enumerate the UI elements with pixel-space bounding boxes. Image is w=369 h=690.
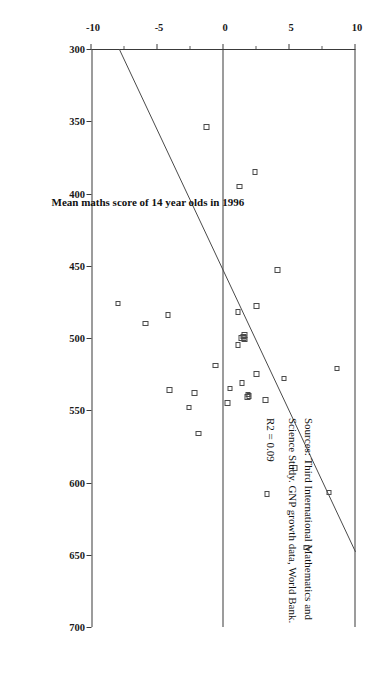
- y-axis-minor-tick: [123, 46, 124, 49]
- scatter-point: [235, 309, 241, 315]
- scatter-point: [195, 431, 201, 437]
- scatter-point: [281, 376, 287, 382]
- y-axis-tick: [222, 44, 223, 49]
- scatter-point: [241, 337, 247, 343]
- scatter-point: [235, 342, 241, 348]
- x-axis-tick-label: 300: [65, 44, 89, 55]
- scatter-point: [166, 387, 172, 393]
- scatter-point: [252, 169, 258, 175]
- x-axis-tick-label: 500: [65, 333, 89, 344]
- source-line-1: Sources: Third International Mathematics…: [300, 418, 316, 668]
- scatter-point: [142, 321, 148, 327]
- source-line-3: R2 = 0.09: [262, 418, 278, 668]
- scatter-point: [263, 397, 269, 403]
- scatter-point: [239, 380, 245, 386]
- x-axis-tick-label: 700: [65, 622, 89, 633]
- x-axis-tick-label: 550: [65, 405, 89, 416]
- y-axis-tick-label: 10: [345, 22, 369, 33]
- y-axis-minor-tick: [189, 46, 190, 49]
- y-axis-minor-tick: [255, 46, 256, 49]
- y-axis-tick-label: -5: [147, 22, 171, 33]
- y-axis-tick-label: -10: [81, 22, 105, 33]
- y-axis-minor-tick: [321, 46, 322, 49]
- scatter-point: [115, 301, 121, 307]
- scatter-point: [274, 267, 280, 273]
- scatter-point: [191, 390, 197, 396]
- scatter-point: [244, 394, 250, 400]
- x-axis-tick-label: 350: [65, 116, 89, 127]
- y-axis-tick-label: 5: [279, 22, 303, 33]
- scatter-point: [165, 312, 171, 318]
- scatter-point: [253, 303, 259, 309]
- scatter-point: [212, 363, 218, 369]
- x-axis-tick-label: 600: [65, 477, 89, 488]
- y-axis-tick: [90, 44, 91, 49]
- scatter-point: [236, 184, 242, 190]
- x-axis-title: Mean maths score of 14 year olds in 1996: [51, 196, 244, 208]
- source-note: Sources: Third International Mathematics…: [262, 418, 316, 668]
- scatter-point: [253, 371, 259, 377]
- scatter-point: [227, 386, 233, 392]
- y-axis-tick-label: 0: [213, 22, 237, 33]
- scatter-point: [186, 405, 192, 411]
- scatter-point: [224, 400, 230, 406]
- source-line-2: Science Study. GNP growth data, World Ba…: [284, 418, 300, 668]
- scatter-point: [334, 366, 340, 372]
- y-axis-tick: [156, 44, 157, 49]
- y-axis-tick: [354, 44, 355, 49]
- x-axis-tick-label: 650: [65, 549, 89, 560]
- scatter-point: [326, 490, 332, 496]
- y-axis-tick: [288, 44, 289, 49]
- scatter-point: [203, 124, 209, 130]
- x-axis-tick-label: 450: [65, 260, 89, 271]
